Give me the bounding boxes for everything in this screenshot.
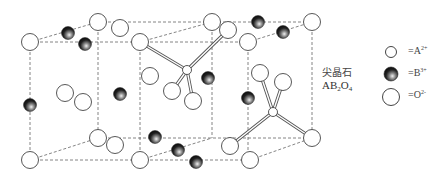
oxygen-atom	[242, 152, 259, 169]
oxygen-atom	[132, 34, 149, 51]
oxygen-atom	[222, 138, 239, 155]
oxygen-atom	[304, 130, 321, 147]
oxygen-atom	[90, 130, 107, 147]
b-atom	[24, 99, 37, 112]
oxygen-atom	[185, 93, 202, 110]
oxygen-atom	[240, 34, 257, 51]
oxygen-atom	[112, 20, 129, 37]
oxygen-atom	[57, 85, 74, 102]
b-atom	[62, 27, 75, 40]
cell-edge	[140, 22, 212, 42]
oxygen-atom	[142, 68, 159, 85]
large-open-circle-icon	[382, 86, 404, 108]
oxygen-atom	[275, 74, 292, 91]
spinel-crystal-structure	[0, 0, 442, 182]
b-atom	[277, 26, 290, 39]
b-atom	[79, 38, 92, 51]
dark-sphere-icon	[382, 64, 404, 84]
b-atom	[114, 88, 127, 101]
oxygen-atom	[164, 83, 181, 100]
oxygen-atom	[220, 22, 237, 39]
small-open-circle-icon	[382, 42, 404, 62]
b-atom	[242, 92, 255, 105]
oxygen-atom	[90, 14, 107, 31]
a-atom	[183, 66, 192, 75]
mineral-caption: 尖晶石 AB2O4	[322, 66, 352, 96]
oxygen-atom	[132, 152, 149, 169]
oxygen-atom	[107, 137, 124, 154]
b-atom	[202, 72, 215, 85]
oxygen-atom	[22, 34, 39, 51]
oxygen-atom	[304, 14, 321, 31]
b-atom	[149, 131, 162, 144]
oxygen-atom	[22, 152, 39, 169]
b-atom	[252, 16, 265, 29]
mineral-name: 尖晶石	[322, 66, 352, 79]
oxygen-atom	[75, 94, 92, 111]
a-atom	[269, 108, 278, 117]
b-atom	[190, 156, 203, 169]
b-atom	[172, 144, 185, 157]
oxygen-atom	[252, 65, 269, 82]
oxygen-atom	[204, 14, 221, 31]
mineral-formula: AB2O4	[322, 79, 352, 96]
cell-edge	[250, 138, 312, 160]
cell-edge	[30, 138, 98, 160]
